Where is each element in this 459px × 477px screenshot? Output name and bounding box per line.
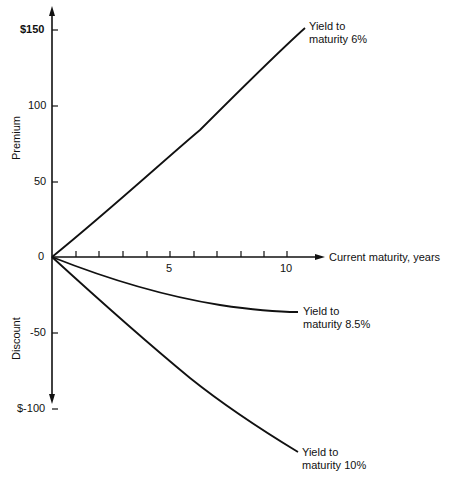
- x-tick-5: 5: [166, 262, 172, 274]
- y-axis-label-discount: Discount: [10, 317, 22, 360]
- series-8-5pct: [52, 257, 298, 312]
- x-axis-label: Current maturity, years: [329, 251, 440, 264]
- x-axis-arrow-icon: [315, 254, 325, 260]
- legend-6pct: Yield tomaturity 6%: [309, 20, 367, 46]
- y-axis-up-arrow-icon: [49, 6, 55, 16]
- y-tick-neg100: $-100: [17, 402, 45, 414]
- y-tick-neg50: -50: [30, 326, 46, 338]
- legend-10pct: Yield tomaturity 10%: [302, 446, 366, 472]
- series-10pct: [52, 257, 298, 452]
- y-tick-0: 0: [38, 250, 44, 262]
- y-tick-150: $150: [20, 23, 44, 35]
- chart-canvas: [0, 0, 459, 477]
- y-axis-down-arrow-icon: [49, 394, 55, 404]
- y-tick-50: 50: [34, 175, 46, 187]
- x-tick-10: 10: [280, 262, 292, 274]
- legend-8-5pct: Yield tomaturity 8.5%: [303, 305, 370, 331]
- y-tick-100: 100: [28, 99, 46, 111]
- series-6pct: [52, 28, 305, 257]
- y-axis-label-premium: Premium: [10, 116, 22, 160]
